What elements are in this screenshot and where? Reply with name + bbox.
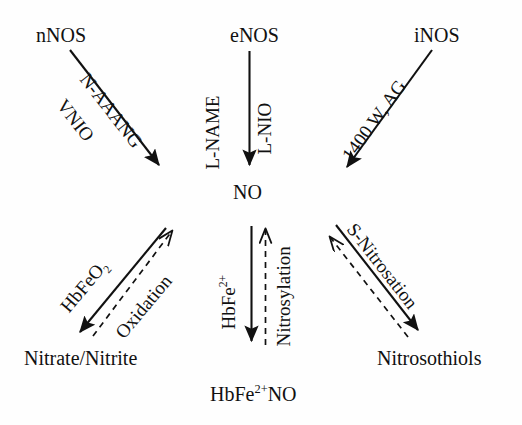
edge-label-l-name: L-NAME [203,96,222,170]
edge-label-hbfe2: HbFe2+ [219,275,238,330]
edge-label-l-name-text: L-NAME [202,96,223,170]
node-enos: eNOS [230,25,279,45]
node-nitrate-nitrite-label: Nitrate/Nitrite [24,347,137,369]
edge-label-nitrosylation-text: Nitrosylation [273,246,294,346]
node-hbfe-no-tail: NO [268,383,297,405]
node-no-label: NO [233,181,262,203]
node-hbfe-no-charge: 2+ [254,382,267,396]
edge-label-nitrosylation: Nitrosylation [274,246,293,346]
node-inos: iNOS [414,25,460,45]
node-nitrate-nitrite: Nitrate/Nitrite [24,348,137,368]
node-hbfe-no-label: HbFe [210,383,254,405]
node-nitrosothiols: Nitrosothiols [377,348,481,368]
node-no: NO [233,182,262,202]
node-nnos-label: nNOS [36,24,86,46]
node-enos-label: eNOS [230,24,279,46]
edge-label-l-nio-text: L-NIO [254,103,275,155]
edge-label-hbfe2-text: HbFe [218,287,239,329]
edge-label-hbfe2-charge: 2+ [217,275,230,288]
edge-label-l-nio: L-NIO [255,103,274,155]
node-inos-label: iNOS [414,24,460,46]
node-hbfe-no: HbFe2+NO [210,384,297,404]
node-nitrosothiols-label: Nitrosothiols [377,347,481,369]
node-nnos: nNOS [36,25,86,45]
pathway-diagram: nNOS eNOS iNOS NO Nitrate/Nitrite HbFe2+… [0,0,522,425]
